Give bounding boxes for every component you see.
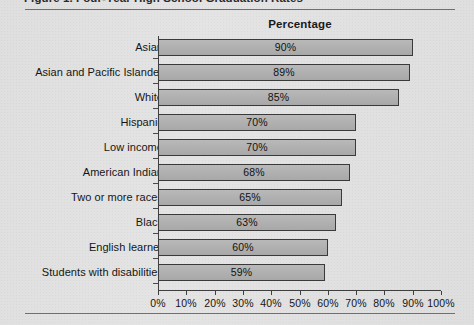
x-axis-tick	[384, 291, 385, 295]
bar-row: Hispanic70%	[0, 111, 474, 136]
figure-caption-cropped: Figure 1. Four-Year High School Graduati…	[0, 0, 474, 6]
chart-title: Percentage	[158, 18, 442, 30]
category-label: American Indian	[83, 166, 163, 178]
x-axis-tick	[215, 291, 216, 295]
category-label: English learner	[89, 241, 163, 253]
category-label: Students with disabilities	[42, 266, 163, 278]
x-axis-label: 40%	[255, 297, 287, 309]
bar-value-label: 70%	[158, 141, 356, 153]
bar-value-label: 89%	[158, 66, 410, 78]
x-axis-tick	[328, 291, 329, 295]
bar-value-label: 90%	[158, 41, 413, 53]
bar-row: White85%	[0, 86, 474, 111]
bar-value-label: 60%	[158, 241, 328, 253]
x-axis-tick	[356, 291, 357, 295]
x-axis-tick	[186, 291, 187, 295]
x-axis-label: 100%	[425, 297, 457, 309]
category-label: Hispanic	[120, 116, 163, 128]
bar-value-label: 70%	[158, 116, 356, 128]
figure-caption-text: Figure 1. Four-Year High School Graduati…	[24, 0, 303, 4]
bar-row: American Indian68%	[0, 161, 474, 186]
x-axis-tick	[300, 291, 301, 295]
x-axis-label: 10%	[170, 297, 202, 309]
x-axis-tick	[441, 291, 442, 295]
x-axis-tick	[158, 291, 159, 295]
bar-chart-plot-area: Asian90%Asian and Pacific Islander89%Whi…	[0, 36, 474, 294]
bar-row: Low income70%	[0, 136, 474, 161]
bar-value-label: 63%	[158, 216, 336, 228]
bar-row: Black63%	[0, 211, 474, 236]
x-axis-tick	[243, 291, 244, 295]
x-axis-tick	[413, 291, 414, 295]
bar-row: Asian90%	[0, 36, 474, 61]
category-label: Low income	[104, 141, 163, 153]
bar-row: English learner60%	[0, 236, 474, 261]
category-label: Two or more races	[71, 191, 163, 203]
x-axis-label: 80%	[368, 297, 400, 309]
x-axis-tick	[271, 291, 272, 295]
y-axis-line	[158, 36, 159, 290]
bar-row: Students with disabilities59%	[0, 261, 474, 286]
divider-bottom	[25, 313, 455, 314]
bar-value-label: 68%	[158, 166, 350, 178]
bar-row: Asian and Pacific Islander89%	[0, 61, 474, 86]
divider-top	[25, 9, 455, 10]
bar-value-label: 65%	[158, 191, 342, 203]
bar-value-label: 59%	[158, 266, 325, 278]
bar-row: Two or more races65%	[0, 186, 474, 211]
category-label: Asian and Pacific Islander	[35, 66, 163, 78]
bar-value-label: 85%	[158, 91, 399, 103]
